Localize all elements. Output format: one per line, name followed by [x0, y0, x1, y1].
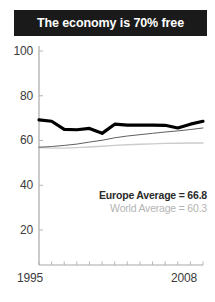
- x-tick-label-start: 1995: [17, 272, 43, 284]
- legend-europe-average: Europe Average = 66.8: [95, 189, 207, 202]
- chart-figure: The economy is 70% free 100 80 60 40 20 …: [0, 0, 215, 302]
- y-tick-label-80: 80: [3, 90, 33, 102]
- chart-legend: Europe Average = 66.8 World Average = 60…: [95, 189, 207, 215]
- series-line: [39, 128, 203, 147]
- y-tick-label-60: 60: [3, 134, 33, 146]
- legend-world-average: World Average = 60.3: [95, 202, 207, 215]
- y-tick-label-20: 20: [3, 224, 33, 236]
- series-line: [39, 120, 203, 133]
- data-series-group: [39, 120, 203, 148]
- axis-lines: [39, 46, 203, 265]
- y-tick-label-40: 40: [3, 179, 33, 191]
- y-tick-label-100: 100: [3, 45, 33, 57]
- x-tick-label-end: 2008: [171, 272, 197, 284]
